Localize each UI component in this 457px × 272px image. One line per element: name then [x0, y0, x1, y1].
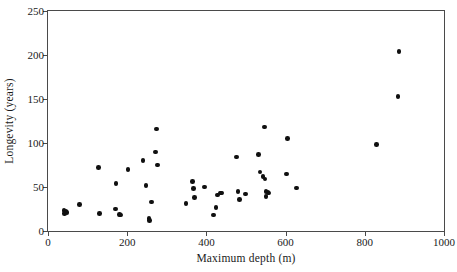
- data-point: [184, 201, 189, 206]
- data-point: [215, 193, 220, 198]
- data-point: [237, 197, 242, 202]
- data-point: [62, 211, 67, 216]
- data-point: [218, 191, 223, 196]
- data-point: [234, 155, 239, 160]
- data-point: [214, 205, 219, 210]
- y-tick-label: 200: [28, 50, 45, 61]
- data-point: [262, 125, 267, 130]
- data-point: [191, 186, 196, 191]
- data-point: [149, 200, 154, 205]
- x-axis-label: Maximum depth (m): [47, 252, 445, 264]
- data-point: [258, 170, 263, 175]
- data-point: [261, 174, 266, 179]
- data-point: [264, 189, 269, 194]
- data-point: [96, 165, 101, 170]
- scatter-plot-figure: 050100150200250 02004006008001000 Maximu…: [0, 0, 457, 272]
- y-tick-label: 250: [28, 6, 45, 17]
- data-point: [219, 191, 224, 196]
- data-point: [117, 212, 122, 217]
- data-point: [284, 172, 289, 177]
- data-point: [236, 189, 241, 194]
- data-point: [64, 209, 69, 214]
- data-point: [396, 94, 401, 99]
- y-tick-label: 150: [28, 94, 45, 105]
- y-tick-label: 100: [28, 138, 45, 149]
- y-axis-label: Longevity (years): [3, 46, 15, 196]
- data-point: [147, 216, 152, 221]
- data-point: [114, 181, 119, 186]
- data-point: [154, 127, 159, 132]
- data-point: [65, 210, 70, 215]
- data-point: [147, 218, 152, 223]
- data-point: [118, 213, 123, 218]
- plot-area: 050100150200250 02004006008001000: [47, 10, 445, 232]
- data-point: [263, 177, 268, 182]
- data-point: [294, 186, 299, 191]
- x-tick-label: 400: [198, 237, 215, 248]
- data-point: [397, 49, 402, 54]
- data-point: [243, 192, 248, 197]
- data-point: [155, 163, 160, 168]
- data-point: [97, 211, 102, 216]
- data-point: [62, 208, 67, 213]
- data-point: [266, 190, 271, 195]
- x-tick-label: 200: [119, 237, 136, 248]
- data-point: [192, 195, 197, 200]
- data-point: [202, 185, 207, 190]
- data-point: [141, 158, 146, 163]
- data-points-layer: [48, 11, 444, 231]
- data-point: [153, 150, 158, 155]
- x-tick-label: 600: [277, 237, 294, 248]
- data-point: [190, 179, 195, 184]
- data-point: [285, 136, 290, 141]
- data-point: [77, 202, 82, 207]
- y-tick-label: 0: [39, 226, 45, 237]
- data-point: [256, 152, 261, 157]
- data-point: [113, 207, 118, 212]
- data-point: [264, 194, 269, 199]
- data-point: [211, 213, 216, 218]
- x-tick-label: 1000: [433, 237, 455, 248]
- data-point: [126, 167, 131, 172]
- data-point: [144, 183, 149, 188]
- x-tick-label: 0: [45, 237, 51, 248]
- y-tick-label: 50: [33, 182, 44, 193]
- data-point: [267, 191, 272, 196]
- data-point: [374, 142, 379, 147]
- x-tick-label: 800: [357, 237, 374, 248]
